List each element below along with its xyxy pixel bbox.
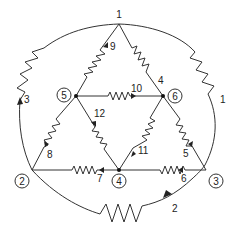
arrow-icon	[17, 97, 23, 105]
node-6: 6	[168, 89, 182, 103]
branch-label: 6	[181, 173, 187, 184]
node-2: 2	[15, 174, 29, 188]
node-label: 1	[116, 9, 122, 20]
branch-7: 7	[32, 166, 119, 184]
branch-label: 4	[158, 75, 164, 86]
branch-9: 9	[76, 24, 119, 96]
arrow-icon	[131, 151, 136, 157]
arrow-icon	[91, 121, 96, 127]
node-5: 5	[57, 88, 71, 102]
node-label: 4	[116, 176, 122, 187]
junction-dot	[74, 94, 78, 98]
branch-10: 10	[76, 83, 163, 100]
branch-6: 6	[119, 166, 206, 184]
node-label: 3	[213, 176, 219, 187]
branch-label: 1	[220, 94, 226, 105]
branch-label: 5	[183, 148, 189, 159]
branch-label: 12	[94, 108, 106, 119]
circuit-diagram: 3 1 2 9 4 10 12 11 8	[0, 0, 238, 238]
branch-label: 9	[110, 41, 116, 52]
node-label: 2	[19, 176, 25, 187]
branch-label: 7	[97, 173, 103, 184]
node-label: 5	[61, 90, 67, 101]
branch-label: 10	[131, 83, 143, 94]
junction-dot	[117, 168, 121, 172]
junction-dot	[161, 94, 165, 98]
branch-label: 8	[47, 149, 53, 160]
branch-8: 8	[32, 96, 76, 170]
node-3: 3	[209, 174, 223, 188]
node-1: 1	[116, 9, 122, 20]
branch-5: 5	[163, 96, 206, 170]
branch-label: 11	[138, 145, 149, 156]
branch-label: 3	[24, 94, 30, 105]
branch-label: 2	[172, 203, 178, 214]
branch-12: 12	[76, 96, 119, 170]
node-4: 4	[112, 174, 126, 188]
branch-11: 11	[119, 96, 163, 170]
node-label: 6	[172, 91, 178, 102]
